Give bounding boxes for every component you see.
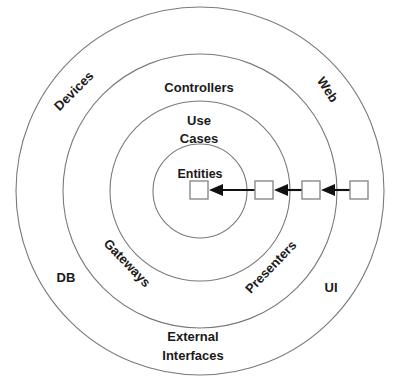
label-cases: Cases (180, 131, 218, 146)
label-use: Use (187, 113, 211, 128)
flow-arrow-group (209, 184, 350, 196)
external-box (350, 181, 368, 199)
arrow-to-entities-head (209, 184, 223, 196)
controllers-box (302, 181, 320, 199)
clean-architecture-diagram: Devices Web Gateways Presenters DB UI Ex… (0, 0, 393, 379)
label-devices: Devices (51, 68, 96, 113)
arrow-to-use-cases-head (274, 184, 288, 196)
label-web: Web (314, 74, 341, 105)
arrow-to-controllers-head (321, 184, 335, 196)
diagram-canvas: Devices Web Gateways Presenters DB UI Ex… (0, 0, 393, 379)
label-db: DB (57, 270, 76, 285)
label-entities: Entities (177, 167, 222, 181)
label-ui: UI (325, 280, 338, 295)
label-controllers: Controllers (164, 80, 233, 95)
entities-box (190, 181, 208, 199)
label-interfaces: Interfaces (162, 348, 223, 363)
label-external: External (167, 329, 218, 344)
use-cases-box (255, 181, 273, 199)
